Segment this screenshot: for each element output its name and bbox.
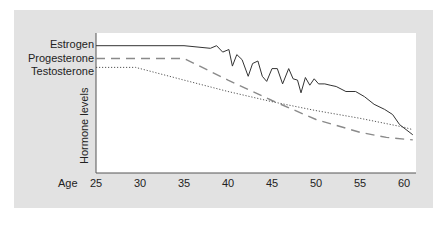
x-tick: 25 <box>84 177 108 189</box>
testosterone-line <box>96 67 413 129</box>
x-tick: 50 <box>304 177 328 189</box>
legend-estrogen: Estrogen <box>4 38 94 50</box>
x-tick: 35 <box>172 177 196 189</box>
progesterone-line <box>96 59 413 140</box>
x-tick: 45 <box>260 177 284 189</box>
x-tick: 60 <box>392 177 416 189</box>
y-axis-label: Hormone levels <box>78 88 90 164</box>
x-tick: 55 <box>348 177 372 189</box>
legend-testosterone: Testosterone <box>4 65 94 77</box>
x-tick: 30 <box>128 177 152 189</box>
x-tick: 40 <box>216 177 240 189</box>
x-axis-label: Age <box>58 177 78 189</box>
legend-progesterone: Progesterone <box>4 52 94 64</box>
